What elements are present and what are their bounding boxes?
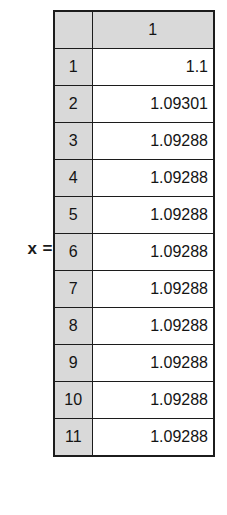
matrix-cell: 1.09301 — [92, 86, 214, 123]
matrix-cell: 1.09288 — [92, 271, 214, 308]
table-row: 51.09288 — [54, 197, 214, 234]
table-row: 31.09288 — [54, 123, 214, 160]
matrix-cell: 1.09288 — [92, 419, 214, 457]
row-index-cell: 9 — [54, 345, 92, 382]
matrix-cell: 1.09288 — [92, 234, 214, 271]
table-row: 81.09288 — [54, 308, 214, 345]
row-index-cell: 7 — [54, 271, 92, 308]
row-index-cell: 4 — [54, 160, 92, 197]
matrix-cell: 1.09288 — [92, 308, 214, 345]
table-row: 101.09288 — [54, 382, 214, 419]
table-row: 61.09288 — [54, 234, 214, 271]
matrix-cell: 1.09288 — [92, 345, 214, 382]
row-index-cell: 3 — [54, 123, 92, 160]
matrix-cell: 1.09288 — [92, 160, 214, 197]
table-row: 21.09301 — [54, 86, 214, 123]
table-row: 71.09288 — [54, 271, 214, 308]
corner-cell — [54, 11, 92, 49]
row-index-cell: 1 — [54, 49, 92, 86]
matrix-table-header: 1 — [54, 11, 214, 49]
variable-label: x = — [10, 0, 53, 497]
table-row: 111.09288 — [54, 419, 214, 457]
matrix-equation: x = 1 11.121.0930131.0928841.0928851.092… — [0, 0, 227, 515]
table-row: 11.1 — [54, 49, 214, 86]
table-row: 91.09288 — [54, 345, 214, 382]
matrix-cell: 1.09288 — [92, 382, 214, 419]
matrix-table-body: 11.121.0930131.0928841.0928851.0928861.0… — [54, 49, 214, 457]
row-index-cell: 6 — [54, 234, 92, 271]
column-header-1: 1 — [92, 11, 214, 49]
matrix-cell: 1.1 — [92, 49, 214, 86]
row-index-cell: 10 — [54, 382, 92, 419]
table-row: 41.09288 — [54, 160, 214, 197]
matrix-table: 1 11.121.0930131.0928841.0928851.0928861… — [53, 10, 215, 457]
matrix-cell: 1.09288 — [92, 123, 214, 160]
row-index-cell: 8 — [54, 308, 92, 345]
matrix-container: 1 11.121.0930131.0928841.0928851.0928861… — [53, 10, 213, 457]
matrix-cell: 1.09288 — [92, 197, 214, 234]
header-row: 1 — [54, 11, 214, 49]
row-index-cell: 5 — [54, 197, 92, 234]
row-index-cell: 11 — [54, 419, 92, 457]
row-index-cell: 2 — [54, 86, 92, 123]
